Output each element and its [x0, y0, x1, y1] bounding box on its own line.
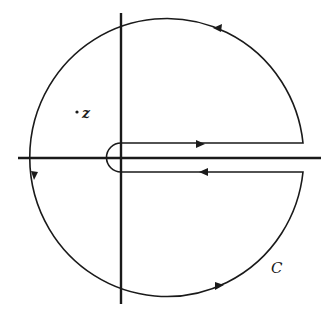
contour-c-label: C [271, 259, 283, 277]
point-z-label: z [81, 105, 91, 121]
keyhole-contour-diagram: z C [0, 0, 335, 326]
arrow-lower-cut-left-icon [199, 168, 208, 176]
arrow-upper-cut-right-icon [196, 140, 205, 148]
arrow-top-left-icon [213, 24, 222, 32]
arrow-bottom-right-icon [215, 282, 224, 290]
point-z-dot [75, 110, 78, 113]
